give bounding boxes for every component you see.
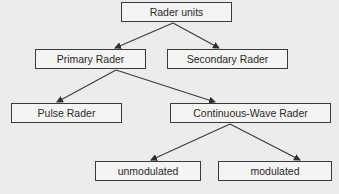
node-label: Rader units [150,6,204,18]
node-label: Secondary Rader [187,53,269,65]
node-primary-rader: Primary Rader [35,49,146,69]
node-label: Primary Rader [57,53,125,65]
node-modulated: modulated [218,161,332,181]
arrow-cw-to-mod [230,124,300,160]
node-label: unmodulated [118,165,179,177]
node-label: modulated [250,165,299,177]
arrow-root-to-primary [115,23,173,48]
node-pulse-rader: Pulse Rader [11,103,122,123]
node-unmodulated: unmodulated [95,161,201,181]
arrow-root-to-secondary [173,23,219,48]
node-label: Pulse Rader [38,107,96,119]
node-secondary-rader: Secondary Rader [167,49,288,69]
node-continuous-wave-rader: Continuous-Wave Rader [170,103,331,123]
node-label: Continuous-Wave Rader [193,107,308,119]
arrow-primary-to-pulse [57,70,116,102]
radar-classification-diagram: Rader units Primary Rader Secondary Rade… [0,0,339,194]
arrow-cw-to-unmod [151,124,230,160]
node-rader-units: Rader units [121,2,232,22]
arrow-primary-to-cw [116,70,215,102]
